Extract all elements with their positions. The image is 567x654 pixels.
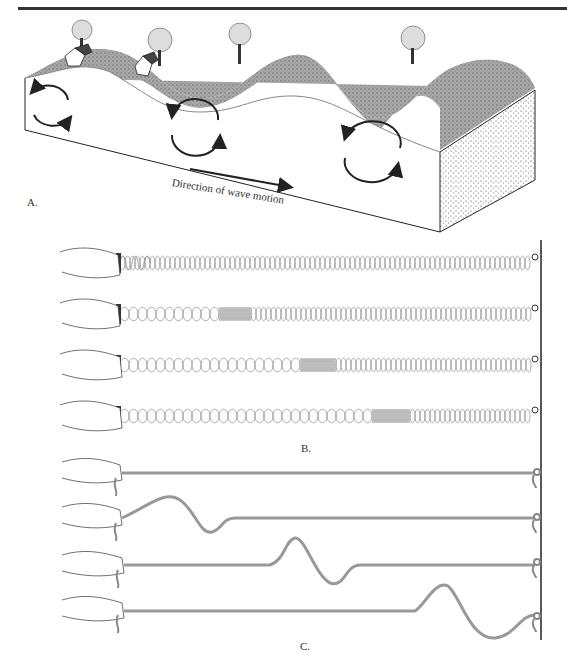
panel-b-label: B. [301,442,311,454]
rope-rows [122,473,535,638]
spring-coil [120,358,531,372]
spring-coil [120,409,530,423]
spring-coil [120,256,530,270]
rope-knot-icon [115,469,540,633]
figure-panels-bc [0,0,567,654]
spring-coil [120,307,531,321]
panel-c-label: C. [300,640,310,652]
hand-icon [60,248,124,621]
